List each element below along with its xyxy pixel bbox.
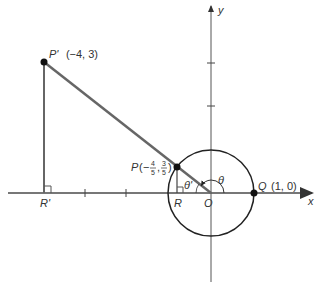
svg-text:5: 5 (151, 169, 155, 176)
svg-text:P: P (131, 161, 139, 173)
right-angle-marker-r-prime (44, 186, 51, 193)
unit-circle-diagram: y x P' (−4, 3) P ( − 4 5 , 3 5 ) Q (1, 0… (0, 0, 323, 288)
x-axis-label: x (307, 195, 314, 207)
svg-text:,: , (157, 161, 160, 173)
svg-text:−: − (143, 161, 149, 173)
svg-text:4: 4 (151, 160, 155, 167)
label-theta-prime: θ' (184, 179, 193, 191)
y-axis-label: y (217, 4, 225, 16)
label-o: O (204, 197, 213, 209)
point-p-prime (41, 59, 48, 66)
svg-text:3: 3 (162, 160, 166, 167)
label-theta: θ (218, 174, 224, 186)
svg-text:5: 5 (162, 169, 166, 176)
svg-text:): ) (168, 161, 172, 173)
label-q: Q (1, 0) (258, 176, 297, 193)
angle-theta-prime-arc (196, 184, 199, 193)
label-p: P ( − 4 5 , 3 5 ) (131, 160, 172, 176)
point-p (174, 164, 181, 171)
segment-p-prime-o (44, 62, 211, 193)
label-p-prime: P' (−4, 3) (49, 44, 98, 61)
label-r: R (174, 197, 182, 209)
point-q (251, 190, 258, 197)
label-r-prime: R' (40, 197, 51, 209)
